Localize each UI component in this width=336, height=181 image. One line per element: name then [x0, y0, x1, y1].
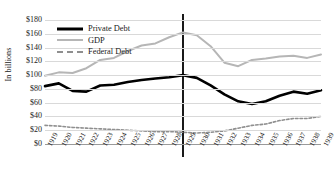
legend-swatch-private-debt [57, 24, 83, 34]
y-axis-tick-label: $20 [30, 126, 42, 134]
gridline-60 [45, 103, 321, 104]
legend-label-gdp: GDP [88, 35, 105, 47]
y-axis-tick-label: $60 [30, 99, 42, 107]
legend-label-federal-debt: Federal Debt [88, 46, 132, 58]
y-axis-tick-label: $120 [26, 57, 42, 65]
gridline-120 [45, 61, 321, 62]
legend-swatch-gdp [57, 35, 83, 45]
gridline-100 [45, 75, 321, 76]
y-axis-tick-label: $100 [26, 71, 42, 79]
legend-swatch-federal-debt [57, 47, 83, 57]
gridline-180 [45, 20, 321, 21]
chart-legend: Private Debt GDP Federal Debt [57, 23, 132, 58]
y-axis-tick-label: $0 [34, 140, 42, 148]
y-axis-tick-label: $40 [30, 112, 42, 120]
legend-item-gdp: GDP [57, 35, 132, 47]
legend-item-private-debt: Private Debt [57, 23, 132, 35]
gridline-20 [45, 130, 321, 131]
x-axis-tick-label: 1939 [322, 131, 336, 147]
y-axis-tick-label: $180 [26, 16, 42, 24]
y-axis-title: In billions [4, 30, 13, 100]
gridline-40 [45, 116, 321, 117]
y-axis-tick-label: $140 [26, 44, 42, 52]
gridline-80 [45, 89, 321, 90]
y-axis-tick-label: $80 [30, 85, 42, 93]
legend-label-private-debt: Private Debt [88, 23, 130, 35]
y-axis-tick-label: $160 [26, 30, 42, 38]
legend-item-federal-debt: Federal Debt [57, 46, 132, 58]
